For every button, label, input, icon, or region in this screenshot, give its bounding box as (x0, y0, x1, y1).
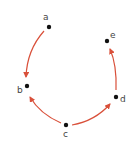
node-label-d: d (120, 94, 126, 104)
edge-d-to-e (110, 49, 116, 90)
edge-a-to-b (26, 31, 44, 77)
graph-svg: a b c d e (0, 0, 132, 143)
node-label-b: b (17, 85, 23, 95)
node-label-e: e (110, 30, 116, 40)
node-a (47, 25, 51, 29)
node-label-a: a (43, 12, 49, 22)
node-c (64, 123, 68, 127)
edge-c-to-b (30, 97, 61, 123)
edge-c-to-d (72, 104, 110, 125)
node-b (25, 84, 29, 88)
node-e (105, 39, 109, 43)
node-d (114, 95, 118, 99)
diagram-canvas: a b c d e (0, 0, 132, 143)
node-label-c: c (63, 129, 68, 139)
